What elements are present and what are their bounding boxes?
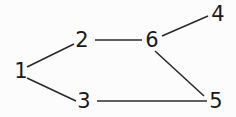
edge-1-2	[27, 44, 74, 67]
node-label-3[interactable]: 3	[77, 91, 90, 112]
edge-6-4	[162, 16, 208, 36]
node-label-6[interactable]: 6	[145, 30, 158, 51]
node-label-5[interactable]: 5	[209, 91, 222, 112]
edge-6-5	[155, 51, 204, 96]
edges-group	[27, 16, 208, 101]
node-label-4[interactable]: 4	[211, 4, 224, 25]
edge-1-3	[27, 78, 76, 101]
graph-diagram-canvas: 123456	[0, 0, 236, 117]
node-label-1[interactable]: 1	[14, 61, 27, 82]
graph-edges-layer	[0, 0, 236, 117]
node-label-2[interactable]: 2	[75, 30, 88, 51]
